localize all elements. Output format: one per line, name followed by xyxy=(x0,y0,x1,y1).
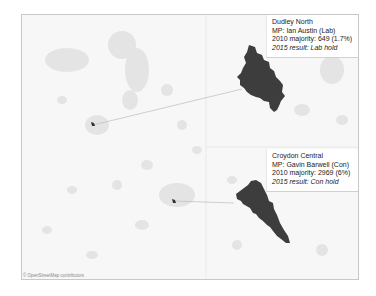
map-frame[interactable]: Dudley North MP: Ian Austin (Lab) 2010 m… xyxy=(21,14,359,280)
callout-result: 2015 result: Lab hold xyxy=(272,44,354,53)
croydon-central-callout: Croydon Central MP: Gavin Barwell (Con) … xyxy=(266,149,358,192)
callout-result: 2015 result: Con hold xyxy=(272,178,354,187)
callout-majority: 2010 majority: 649 (1.7%) xyxy=(272,35,354,44)
map-attribution[interactable]: © OpenStreetMap contributors xyxy=(23,273,84,278)
dudley-north-callout: Dudley North MP: Ian Austin (Lab) 2010 m… xyxy=(266,15,358,58)
callout-mp: MP: Ian Austin (Lab) xyxy=(272,27,354,36)
callout-mp: MP: Gavin Barwell (Con) xyxy=(272,161,354,170)
callout-constituency-name: Dudley North xyxy=(272,18,354,27)
callout-constituency-name: Croydon Central xyxy=(272,152,354,161)
callout-majority: 2010 majority: 2969 (6%) xyxy=(272,169,354,178)
basemap-urban-areas xyxy=(42,31,348,259)
